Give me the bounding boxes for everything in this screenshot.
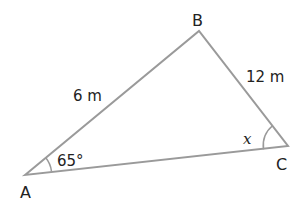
side-label-bc: 12 m xyxy=(246,68,284,86)
vertex-label-a: A xyxy=(20,183,31,202)
triangle-diagram: A B C 6 m 12 m 65° x xyxy=(0,0,307,208)
angle-label-c: x xyxy=(243,130,252,148)
vertex-label-b: B xyxy=(192,11,203,30)
angle-arc-c xyxy=(263,126,272,150)
angle-arc-a xyxy=(46,158,52,172)
vertex-label-c: C xyxy=(276,155,287,174)
angle-label-a: 65° xyxy=(57,152,84,170)
side-label-ab: 6 m xyxy=(73,87,102,105)
